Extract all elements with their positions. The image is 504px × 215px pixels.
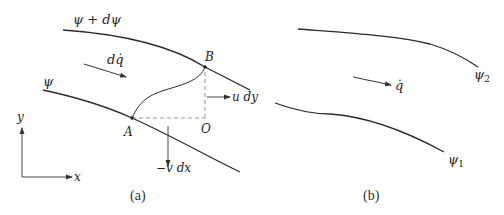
label-psi-plus-dpsi: ψ + dψ <box>73 12 122 27</box>
label-q: q̇ <box>395 78 403 93</box>
streamline-psi-plus-dpsi <box>63 30 250 90</box>
label-u-dy: u dy <box>232 90 258 104</box>
label-x-axis: x <box>74 170 81 184</box>
stream-function-diagram: ψ + dψ ψ dq̇ A B O u dy −v dx y x (a) <box>0 0 504 215</box>
label-psi: ψ <box>43 74 54 89</box>
label-dq: dq̇ <box>107 52 124 67</box>
panel-a: ψ + dψ ψ dq̇ A B O u dy −v dx y x (a) <box>16 12 258 204</box>
label-o: O <box>201 122 211 136</box>
caption-a: (a) <box>130 188 146 204</box>
point-b <box>203 65 207 69</box>
streamline-psi-2 <box>298 29 478 67</box>
caption-b: (b) <box>363 188 380 204</box>
point-a <box>130 116 134 120</box>
label-y-axis: y <box>16 110 24 124</box>
label-psi-2: ψ2 <box>474 67 490 84</box>
panel-b: ψ2 ψ1 q̇ (b) <box>275 29 490 204</box>
label-a: A <box>123 125 133 139</box>
label-minus-v-dx: −v dx <box>156 161 191 175</box>
curve-a-to-b <box>132 67 205 118</box>
flow-arrow-q <box>353 77 391 85</box>
label-b: B <box>204 50 214 64</box>
label-psi-1: ψ1 <box>448 152 464 169</box>
streamline-psi-1 <box>275 103 444 152</box>
